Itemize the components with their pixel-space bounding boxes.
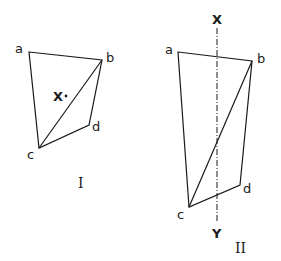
vertex-b-label-2: b [257,51,265,66]
quadrilateral-abdc-2 [178,52,252,207]
figure-caption-2: II [235,240,246,256]
vertex-d-label-1: d [92,119,100,134]
vertex-b-label-1: b [106,50,114,65]
figure-2 [178,28,252,222]
vertex-c-label-1: c [27,147,34,162]
diagram-canvas: X a b c d I X Y a b c d II [0,0,281,261]
vertex-c-label-2: c [177,207,184,222]
axis-bottom-label: Y [211,226,222,241]
vertex-a-label-2: a [165,42,173,57]
vertex-d-label-2: d [243,181,251,196]
point-x-label: X [53,89,63,104]
figure-caption-1: I [78,175,84,191]
axis-top-label: X [212,12,222,27]
diagonal-bc-1 [39,60,102,148]
point-x-dot [65,95,68,98]
vertex-a-label-1: a [15,41,23,56]
